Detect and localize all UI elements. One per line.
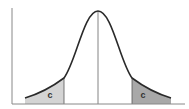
left-tail-label: c — [47, 90, 52, 100]
normal-distribution-diagram: c c — [0, 0, 189, 109]
right-tail-label: c — [140, 90, 145, 100]
